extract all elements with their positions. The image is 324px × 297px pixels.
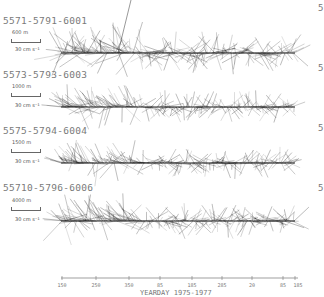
mooring-label-0: 5571-5791-6001 xyxy=(3,15,87,26)
depth-label-1: 1000 m xyxy=(12,83,31,89)
tick-label-6: 20 xyxy=(249,282,255,288)
edge-glyph-1: 5 xyxy=(318,63,323,73)
mooring-label-2: 5575-5794-6004 xyxy=(3,125,87,136)
tick-label-3: 85 xyxy=(157,282,163,288)
tick-label-7: 85 xyxy=(280,282,286,288)
scale-bar-0 xyxy=(11,39,41,43)
edge-glyph-3: 5 xyxy=(318,183,323,193)
depth-label-3: 4000 m xyxy=(12,197,31,203)
stick-series-2 xyxy=(44,140,302,186)
stick-plot-canvas xyxy=(0,0,324,297)
depth-label-0: 600 m xyxy=(12,29,28,35)
tick-label-1: 250 xyxy=(91,282,100,288)
x-axis-title: YEARDAY 1975-1977 xyxy=(140,289,212,297)
scale-label-3: 30 cm s⁻¹ xyxy=(15,216,39,222)
scale-label-1: 30 cm s⁻¹ xyxy=(15,102,39,108)
tick-label-8: 185 xyxy=(293,282,302,288)
tick-label-0: 150 xyxy=(57,282,66,288)
tick-label-4: 185 xyxy=(187,282,196,288)
scale-bar-2 xyxy=(11,149,41,153)
edge-glyph-0: 5 xyxy=(318,3,323,13)
mooring-label-3: 55710-5796-6006 xyxy=(3,182,93,193)
stick-series-1 xyxy=(42,84,306,129)
edge-glyph-2: 5 xyxy=(318,123,323,133)
mooring-label-1: 5573-5793-6003 xyxy=(3,69,87,80)
stick-series-3 xyxy=(43,193,309,245)
scale-label-2: 30 cm s⁻¹ xyxy=(15,158,39,164)
scale-bar-1 xyxy=(11,93,41,97)
scale-bar-3 xyxy=(11,207,41,211)
tick-label-5: 285 xyxy=(217,282,226,288)
tick-label-2: 350 xyxy=(124,282,133,288)
depth-label-2: 1500 m xyxy=(12,139,31,145)
scale-label-0: 30 cm s⁻¹ xyxy=(15,46,39,52)
